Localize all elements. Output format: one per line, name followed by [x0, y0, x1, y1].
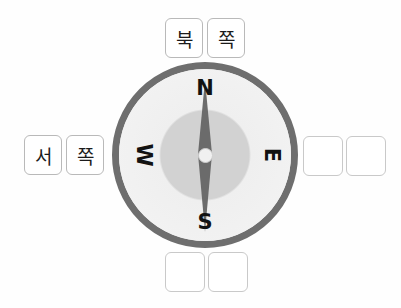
- cardinal-letter-north: N: [196, 78, 214, 99]
- answer-tile-left-2[interactable]: 쪽: [66, 135, 104, 175]
- drop-target-bottom-2[interactable]: [208, 252, 248, 292]
- cardinal-letter-south: S: [197, 212, 212, 233]
- answer-tile-top-2[interactable]: 쪽: [207, 18, 245, 58]
- drop-target-bottom-1[interactable]: [165, 252, 205, 292]
- drop-target-right-1[interactable]: [303, 136, 343, 176]
- cardinal-letter-east: E: [260, 148, 281, 162]
- cardinal-letter-west: W: [133, 143, 154, 166]
- exercise-canvas: N S W E 북 쪽 서 쪽: [0, 0, 401, 308]
- drop-target-right-2[interactable]: [346, 136, 386, 176]
- compass-graphic: N S W E: [112, 62, 298, 248]
- compass-hub: [198, 148, 213, 163]
- answer-tile-top-1[interactable]: 북: [165, 18, 203, 58]
- answer-tile-left-1[interactable]: 서: [24, 135, 62, 175]
